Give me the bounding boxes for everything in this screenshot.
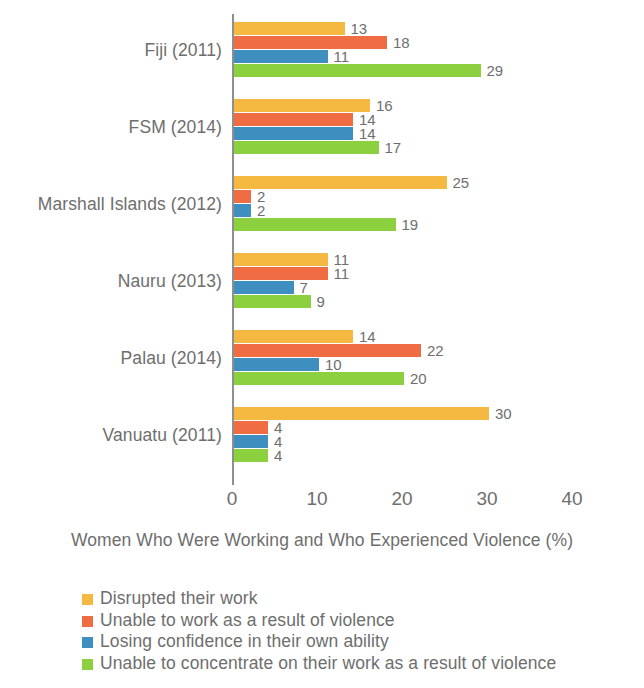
bar-row: 4	[234, 435, 634, 448]
legend-item[interactable]: Disrupted their work	[82, 588, 644, 610]
bar-row: 20	[234, 372, 634, 385]
bar-row: 9	[234, 295, 634, 308]
bar-value-label: 30	[495, 405, 512, 422]
bar-value-label: 7	[300, 279, 308, 296]
bar-group: Fiji (2011)13181129	[0, 22, 644, 78]
bar-row: 17	[234, 141, 634, 154]
legend-label: Unable to concentrate on their work as a…	[100, 653, 556, 673]
bar	[234, 99, 370, 112]
x-axis-title: Women Who Were Working and Who Experienc…	[0, 530, 644, 551]
bar	[234, 449, 268, 462]
bar-row: 4	[234, 449, 634, 462]
bar-row: 19	[234, 218, 634, 231]
bar	[234, 407, 489, 420]
bar	[234, 36, 387, 49]
bar	[234, 190, 251, 203]
legend-swatch-icon	[82, 659, 93, 670]
bar	[234, 435, 268, 448]
category-label: Vanuatu (2011)	[8, 407, 232, 463]
bar-value-label: 17	[385, 139, 402, 156]
x-axis-tick-origin	[232, 478, 234, 485]
bar-row: 2	[234, 204, 634, 217]
bar-row: 30	[234, 407, 634, 420]
category-label: Marshall Islands (2012)	[8, 176, 232, 232]
bar-row: 29	[234, 64, 634, 77]
legend-label: Losing confidence in their own ability	[100, 631, 389, 651]
bar-value-label: 11	[334, 48, 350, 65]
bar	[234, 421, 268, 434]
bar	[234, 295, 311, 308]
bar	[234, 253, 328, 266]
x-axis-tick-label: 20	[372, 488, 432, 510]
x-axis-tick-label: 10	[287, 488, 347, 510]
bar-row: 2	[234, 190, 634, 203]
bar	[234, 372, 404, 385]
bar	[234, 22, 345, 35]
bar	[234, 50, 328, 63]
bar	[234, 141, 379, 154]
bar-row: 16	[234, 99, 634, 112]
bar-row: 11	[234, 253, 634, 266]
bar-row: 11	[234, 267, 634, 280]
bar-row: 10	[234, 358, 634, 371]
bar-value-label: 14	[359, 125, 376, 142]
bar	[234, 113, 353, 126]
legend-swatch-icon	[82, 616, 93, 627]
bar	[234, 358, 319, 371]
category-label: Nauru (2013)	[8, 253, 232, 309]
bar-value-label: 20	[410, 370, 427, 387]
bar-group: Palau (2014)14221020	[0, 330, 644, 386]
bar	[234, 267, 328, 280]
bar-row: 4	[234, 421, 634, 434]
legend-item[interactable]: Unable to concentrate on their work as a…	[82, 653, 644, 675]
bar	[234, 127, 353, 140]
bar-value-label: 9	[317, 293, 325, 310]
bar-row: 14	[234, 127, 634, 140]
bar-value-label: 2	[257, 202, 265, 219]
bar	[234, 218, 396, 231]
bar-group: Marshall Islands (2012)252219	[0, 176, 644, 232]
bar-row: 18	[234, 36, 634, 49]
legend-swatch-icon	[82, 637, 93, 648]
category-label: Palau (2014)	[8, 330, 232, 386]
category-label: Fiji (2011)	[8, 22, 232, 78]
bar-row: 22	[234, 344, 634, 357]
grouped-bar-chart: Fiji (2011)13181129FSM (2014)16141417Mar…	[0, 0, 644, 688]
bar-row: 11	[234, 50, 634, 63]
bar-row: 13	[234, 22, 634, 35]
chart-legend: Disrupted their workUnable to work as a …	[82, 588, 644, 674]
bar-group: Nauru (2013)111179	[0, 253, 644, 309]
legend-item[interactable]: Unable to work as a result of violence	[82, 610, 644, 632]
bar-row: 25	[234, 176, 634, 189]
legend-label: Disrupted their work	[100, 588, 258, 608]
x-axis-tick-label: 30	[457, 488, 517, 510]
x-axis-tick-label: 0	[202, 488, 262, 510]
bar-value-label: 22	[427, 342, 444, 359]
bar-value-label: 10	[325, 356, 342, 373]
legend-item[interactable]: Losing confidence in their own ability	[82, 631, 644, 653]
x-axis: 010203040	[0, 478, 644, 522]
bar	[234, 281, 294, 294]
legend-swatch-icon	[82, 594, 93, 605]
bar-group: FSM (2014)16141417	[0, 99, 644, 155]
bar-value-label: 13	[351, 20, 368, 37]
bar	[234, 330, 353, 343]
bar	[234, 64, 481, 77]
bar-group: Vanuatu (2011)30444	[0, 407, 644, 463]
plot-area: Fiji (2011)13181129FSM (2014)16141417Mar…	[0, 0, 644, 480]
bar-row: 14	[234, 113, 634, 126]
bar-value-label: 11	[334, 265, 350, 282]
bar-value-label: 16	[376, 97, 393, 114]
bar-value-label: 19	[402, 216, 419, 233]
bar-value-label: 14	[359, 328, 376, 345]
bar-row: 7	[234, 281, 634, 294]
x-axis-tick-label: 40	[542, 488, 602, 510]
legend-label: Unable to work as a result of violence	[100, 610, 395, 630]
bar	[234, 176, 447, 189]
bar-value-label: 4	[274, 447, 282, 464]
bar-value-label: 25	[453, 174, 470, 191]
bar	[234, 204, 251, 217]
category-label: FSM (2014)	[8, 99, 232, 155]
bar-value-label: 18	[393, 34, 410, 51]
bar-value-label: 29	[487, 62, 504, 79]
